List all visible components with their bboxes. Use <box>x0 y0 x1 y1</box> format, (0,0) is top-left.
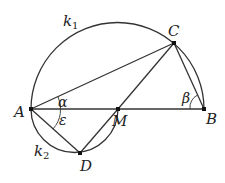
circle-k2-arc <box>31 109 118 153</box>
point-D <box>78 151 82 155</box>
geometry-diagram: A B C M D α β ε k1 k2 <box>0 0 225 183</box>
label-alpha: α <box>58 94 68 110</box>
label-epsilon: ε <box>59 112 67 128</box>
point-M <box>116 107 120 111</box>
label-B: B <box>205 110 217 128</box>
label-beta: β <box>181 90 190 106</box>
point-A <box>29 107 33 111</box>
label-A: A <box>12 103 25 121</box>
label-k1: k1 <box>63 12 78 31</box>
label-D: D <box>79 157 92 175</box>
label-k2: k2 <box>34 142 49 161</box>
point-C <box>172 41 176 45</box>
label-C: C <box>168 22 180 40</box>
segment-CM <box>118 43 174 109</box>
angle-arc-beta <box>190 95 198 109</box>
label-M: M <box>111 112 128 130</box>
